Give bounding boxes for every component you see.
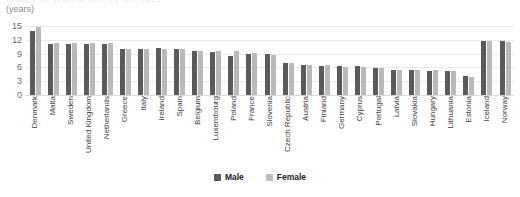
bar-group[interactable] bbox=[171, 26, 189, 95]
bar-female[interactable] bbox=[108, 43, 113, 95]
bar-male[interactable] bbox=[156, 48, 161, 95]
bar-female[interactable] bbox=[361, 67, 366, 95]
bar-group[interactable] bbox=[369, 26, 387, 95]
bar-group[interactable] bbox=[189, 26, 207, 95]
x-axis-label: Slovakia bbox=[411, 96, 419, 126]
bar-group[interactable] bbox=[478, 26, 496, 95]
bar-male[interactable] bbox=[301, 65, 306, 95]
bar-female[interactable] bbox=[289, 63, 294, 95]
y-tick-15: 15 bbox=[12, 22, 22, 31]
bar-group[interactable] bbox=[261, 26, 279, 95]
bar-female[interactable] bbox=[180, 49, 185, 95]
bar-group[interactable] bbox=[62, 26, 80, 95]
bar-group[interactable] bbox=[116, 26, 134, 95]
bar-group[interactable] bbox=[80, 26, 98, 95]
bar-group[interactable] bbox=[406, 26, 424, 95]
bar-group[interactable] bbox=[225, 26, 243, 95]
bar-male[interactable] bbox=[102, 44, 107, 95]
bar-group[interactable] bbox=[153, 26, 171, 95]
bar-group[interactable] bbox=[424, 26, 442, 95]
bar-male[interactable] bbox=[84, 44, 89, 95]
bar-male[interactable] bbox=[48, 44, 53, 95]
bar-male[interactable] bbox=[409, 70, 414, 95]
bar-female[interactable] bbox=[506, 42, 511, 95]
x-axis-label: Belgium bbox=[194, 96, 202, 125]
bar-group[interactable] bbox=[315, 26, 333, 95]
bar-female[interactable] bbox=[252, 53, 257, 95]
bar-group[interactable] bbox=[44, 26, 62, 95]
bar-female[interactable] bbox=[90, 43, 95, 95]
bar-female[interactable] bbox=[415, 70, 420, 95]
bar-group[interactable] bbox=[207, 26, 225, 95]
bar-female[interactable] bbox=[198, 51, 203, 95]
bar-female[interactable] bbox=[379, 68, 384, 95]
bar-male[interactable] bbox=[283, 63, 288, 95]
legend-female[interactable]: Female bbox=[266, 172, 306, 182]
bar-male[interactable] bbox=[192, 51, 197, 95]
bar-male[interactable] bbox=[337, 66, 342, 95]
bar-male[interactable] bbox=[500, 41, 505, 95]
bar-group[interactable] bbox=[388, 26, 406, 95]
bar-group[interactable] bbox=[134, 26, 152, 95]
bar-group[interactable] bbox=[351, 26, 369, 95]
bar-male[interactable] bbox=[138, 49, 143, 95]
bar-female[interactable] bbox=[397, 70, 402, 95]
x-label-cell: Ireland bbox=[153, 96, 171, 154]
bar-group[interactable] bbox=[297, 26, 315, 95]
bar-male[interactable] bbox=[481, 41, 486, 95]
bar-group[interactable] bbox=[279, 26, 297, 95]
bar-female[interactable] bbox=[451, 71, 456, 95]
bar-male[interactable] bbox=[319, 66, 324, 95]
x-axis-label: Denmark bbox=[31, 96, 39, 128]
bar-female[interactable] bbox=[469, 77, 474, 95]
bar-female[interactable] bbox=[271, 55, 276, 95]
bar-group[interactable] bbox=[243, 26, 261, 95]
bar-group[interactable] bbox=[442, 26, 460, 95]
x-axis-label: United Kingdom bbox=[85, 96, 93, 153]
bar-female[interactable] bbox=[72, 43, 77, 95]
bar-female[interactable] bbox=[144, 49, 149, 95]
bar-male[interactable] bbox=[445, 71, 450, 95]
bar-group[interactable] bbox=[333, 26, 351, 95]
x-label-cell: Sweden bbox=[62, 96, 80, 154]
bar-male[interactable] bbox=[355, 66, 360, 95]
bar-female[interactable] bbox=[126, 49, 131, 95]
x-axis-label: Cyprus bbox=[356, 96, 364, 121]
bar-female[interactable] bbox=[433, 70, 438, 95]
chart-legend: MaleFemale bbox=[0, 172, 520, 182]
bar-male[interactable] bbox=[30, 31, 35, 95]
bar-female[interactable] bbox=[216, 51, 221, 95]
bar-male[interactable] bbox=[463, 76, 468, 95]
bar-female[interactable] bbox=[307, 65, 312, 95]
x-label-cell: France bbox=[243, 96, 261, 154]
bar-female[interactable] bbox=[36, 27, 41, 95]
bar-male[interactable] bbox=[228, 56, 233, 95]
bar-female[interactable] bbox=[162, 49, 167, 95]
bar-female[interactable] bbox=[487, 41, 492, 95]
bar-group[interactable] bbox=[98, 26, 116, 95]
bar-male[interactable] bbox=[391, 70, 396, 95]
x-label-cell: Cyprus bbox=[351, 96, 369, 154]
x-axis-label: Iceland bbox=[483, 96, 491, 122]
bar-female[interactable] bbox=[234, 51, 239, 95]
bar-male[interactable] bbox=[174, 49, 179, 95]
bar-female[interactable] bbox=[325, 65, 330, 95]
bar-male[interactable] bbox=[265, 54, 270, 95]
bar-male[interactable] bbox=[246, 54, 251, 95]
bar-group[interactable] bbox=[496, 26, 514, 95]
x-label-cell: Italy bbox=[134, 96, 152, 154]
bar-male[interactable] bbox=[66, 44, 71, 95]
bar-male[interactable] bbox=[427, 71, 432, 95]
bar-male[interactable] bbox=[373, 68, 378, 95]
bar-male[interactable] bbox=[210, 52, 215, 95]
x-label-cell: Austria bbox=[297, 96, 315, 154]
x-axis-label: Estonia bbox=[465, 96, 473, 123]
bar-male[interactable] bbox=[120, 49, 125, 95]
chart-container: Healthy life years at birth, by sex, 201… bbox=[0, 0, 520, 197]
bar-group[interactable] bbox=[460, 26, 478, 95]
x-label-cell: Czech Republic bbox=[279, 96, 297, 154]
legend-male[interactable]: Male bbox=[214, 172, 244, 182]
bar-group[interactable] bbox=[26, 26, 44, 95]
bar-female[interactable] bbox=[54, 43, 59, 95]
bar-female[interactable] bbox=[343, 67, 348, 95]
